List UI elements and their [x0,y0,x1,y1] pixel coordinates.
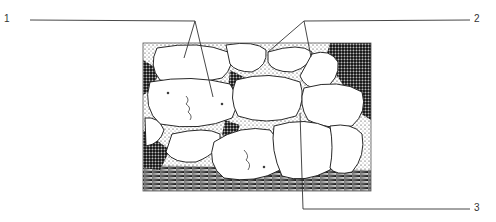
cell [273,121,335,178]
cells [145,43,364,179]
cell [148,78,237,126]
cell [153,45,231,83]
callout-label-3: 3 [474,203,480,213]
callout-label-2: 2 [474,14,480,24]
histology-figure [0,0,496,222]
micrograph-panel [143,43,371,191]
cell [232,75,302,121]
callout-label-1: 1 [4,14,10,24]
cell [302,84,364,127]
